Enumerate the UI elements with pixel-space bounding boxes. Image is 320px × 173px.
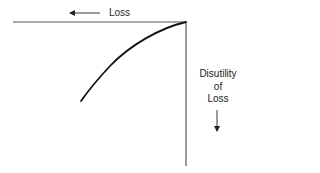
horizontal-axis-label: Loss <box>109 8 130 18</box>
loss-disutility-curve <box>81 22 186 101</box>
vertical-axis-label-line-3: Loss <box>191 93 245 106</box>
vertical-axis-label-line-2: of <box>191 81 245 94</box>
vertical-axis-label-line-1: Disutility <box>191 68 245 81</box>
vertical-axis-label: Disutility of Loss <box>191 68 245 106</box>
